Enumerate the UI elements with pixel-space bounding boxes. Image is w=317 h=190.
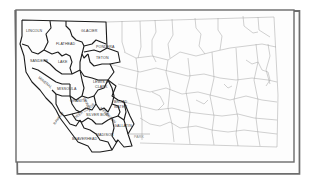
label-granite: GRANITE bbox=[70, 99, 87, 103]
label-flathead: FLATHEAD bbox=[56, 42, 76, 46]
montana-map-scaled: LINCOLN FLATHEAD GLACIER PONDERA TETON S… bbox=[0, 0, 317, 190]
label-glacier: GLACIER bbox=[81, 29, 98, 33]
label-pondera: PONDERA bbox=[96, 45, 115, 49]
label-lewis-clark-line2: CLARK bbox=[95, 85, 108, 89]
label-lewis-clark: LEWIS & bbox=[93, 80, 109, 84]
label-lincoln: LINCOLN bbox=[26, 29, 43, 33]
label-gallatin: GALLATIN bbox=[114, 124, 132, 128]
label-sanders: SANDERS bbox=[30, 59, 49, 63]
label-broadwater: BROAD bbox=[114, 100, 128, 104]
label-park: PARK bbox=[134, 135, 144, 139]
label-beaverhead: BEAVERHEAD bbox=[72, 137, 98, 141]
label-missoula: MISSOULA bbox=[57, 87, 77, 91]
label-lake: LAKE bbox=[58, 60, 68, 64]
map-frame bbox=[16, 10, 294, 162]
label-teton: TETON bbox=[96, 56, 109, 60]
label-madison: MADISON bbox=[96, 133, 114, 137]
label-broadwater-line2: WATER bbox=[114, 105, 127, 109]
